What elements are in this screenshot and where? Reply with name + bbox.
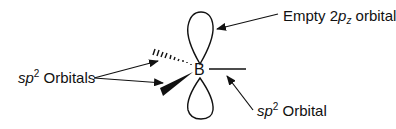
sp2-orbital-label: sp2 Orbital (257, 103, 327, 118)
arrow-to-wedge (94, 78, 163, 83)
hashed-wedge-bond (153, 49, 191, 65)
arrow-to-hashed (94, 61, 158, 78)
sp-italic: sp (257, 102, 273, 119)
upper-p-lobe (188, 12, 213, 64)
orbital-text: Orbital (278, 102, 326, 119)
sp-italic: sp (18, 69, 34, 86)
arrow-to-p-orbital (217, 14, 278, 29)
orbital-text: orbital (351, 7, 396, 24)
arrow-to-sp2-bond (227, 76, 253, 110)
boron-atom: B (194, 62, 205, 78)
empty-2-text: Empty 2 (283, 7, 338, 24)
empty-p-orbital-label: Empty 2pz orbital (283, 8, 396, 23)
solid-wedge-bond (160, 72, 193, 96)
sp2-orbitals-label: sp2 Orbitals (18, 70, 95, 85)
lower-p-lobe (188, 78, 213, 119)
orbitals-text: Orbitals (39, 69, 95, 86)
